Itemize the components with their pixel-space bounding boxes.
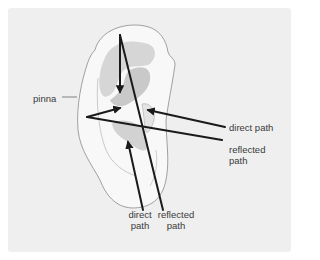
- reflected-path-label-right-line2: path: [229, 155, 265, 166]
- reflected-path-label-right-line1: reflected: [229, 144, 265, 155]
- direct-path-label-bottom-line2: path: [124, 220, 156, 231]
- reflected-path-label-bottom-line1: reflected: [155, 209, 197, 220]
- reflected-path-label-right: reflected path: [229, 144, 265, 166]
- reflected-path-label-bottom-line2: path: [155, 220, 197, 231]
- direct-path-label-bottom-line1: direct: [124, 209, 156, 220]
- direct-path-label-bottom: direct path: [124, 209, 156, 231]
- pinna-label: pinna: [33, 93, 56, 104]
- direct-path-label-right-text: direct path: [229, 122, 273, 133]
- direct-path-label-right: direct path: [229, 122, 273, 133]
- reflected-path-label-bottom: reflected path: [155, 209, 197, 231]
